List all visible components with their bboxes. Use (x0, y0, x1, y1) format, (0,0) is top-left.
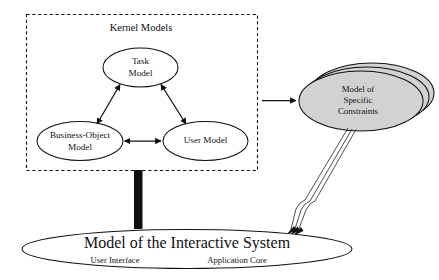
node-constraints-line3: Constraints (338, 106, 379, 116)
node-user-model-line1: User Model (184, 135, 228, 145)
edge-constraints-to-system (286, 128, 356, 236)
label-user-interface: User Interface (91, 255, 140, 265)
label-application-core: Application Core (207, 255, 267, 265)
node-constraints-line2: Specific (344, 95, 373, 105)
node-business-object-model-line2: Model (68, 142, 92, 152)
kernel-models-title: Kernel Models (110, 22, 173, 33)
node-interactive-system-title: Model of the Interactive System (84, 234, 291, 252)
node-task-model-line2: Model (129, 68, 153, 78)
diagram-canvas: Kernel Models Task Model Business-Object… (0, 0, 439, 280)
architecture-diagram: Kernel Models Task Model Business-Object… (0, 0, 439, 280)
node-business-object-model-line1: Business-Object (50, 130, 111, 140)
edge-task-user (161, 85, 186, 125)
node-constraints-line1: Model of (342, 84, 375, 94)
connector-kernel-to-system (134, 170, 143, 229)
edge-task-business-object (97, 85, 120, 125)
node-task-model-line1: Task (132, 56, 150, 66)
